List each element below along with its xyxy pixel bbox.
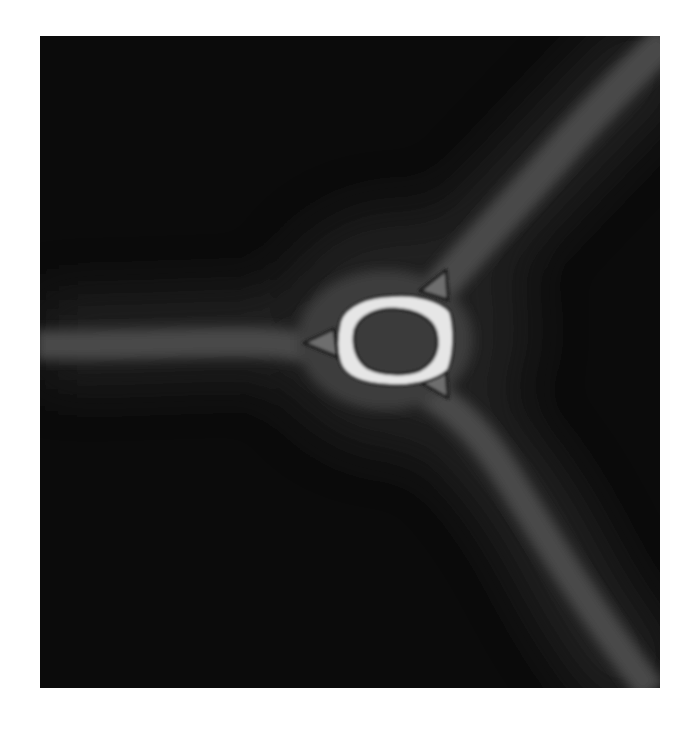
fractal-image-frame <box>40 36 660 688</box>
central-ring <box>337 296 453 386</box>
fractal-image <box>40 36 660 688</box>
branch-left <box>40 342 335 352</box>
ring-core <box>354 309 437 374</box>
